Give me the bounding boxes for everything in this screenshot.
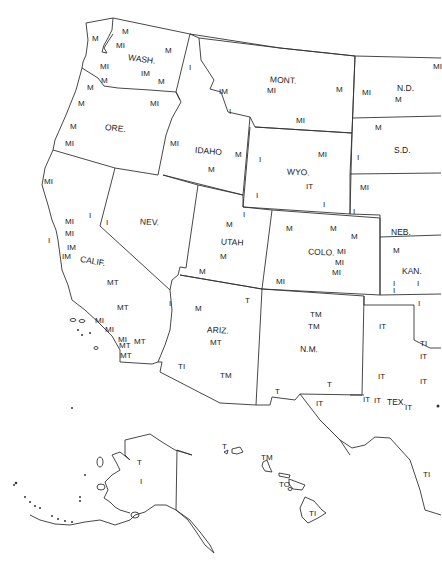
code-label: M xyxy=(226,221,233,229)
code-label: I xyxy=(189,64,191,72)
code-label: M xyxy=(330,225,337,233)
code-label: M xyxy=(101,77,108,85)
code-label: TM xyxy=(220,372,232,380)
code-label: M xyxy=(220,253,227,261)
channel-island xyxy=(70,319,76,322)
code-label: TI xyxy=(309,510,316,518)
code-label: IT xyxy=(420,378,427,386)
code-label: M xyxy=(336,86,343,94)
code-label: I xyxy=(393,280,395,288)
dakotas-outline xyxy=(350,56,441,174)
channel-island xyxy=(94,347,98,350)
state-label: S.D. xyxy=(394,146,411,155)
code-label: MT xyxy=(134,338,146,346)
code-label: T xyxy=(275,388,280,396)
code-label: I xyxy=(323,201,325,209)
state-label: IDAHO xyxy=(195,146,223,157)
texas-outline xyxy=(300,296,441,455)
code-label: I xyxy=(48,237,50,245)
code-label: M xyxy=(195,305,202,313)
code-label: M xyxy=(208,166,215,174)
code-label: MI xyxy=(100,63,109,71)
code-label: M xyxy=(286,225,293,233)
code-label: I xyxy=(106,219,108,227)
code-label: MT xyxy=(210,339,222,347)
code-label: I xyxy=(169,300,171,308)
code-label: TI xyxy=(178,363,185,371)
code-label: MI xyxy=(95,317,104,325)
code-label: T xyxy=(137,459,142,467)
code-label: MT xyxy=(120,352,132,360)
code-label: MI xyxy=(433,63,442,71)
code-label: T xyxy=(245,297,250,305)
state-label: NEV. xyxy=(140,218,159,227)
code-label: M xyxy=(395,96,402,104)
state-label: ARIZ. xyxy=(207,325,229,335)
code-label: M xyxy=(70,123,77,131)
code-label: TI xyxy=(423,471,430,479)
code-label: I xyxy=(353,208,355,216)
code-label: TO xyxy=(279,481,290,489)
channel-island xyxy=(79,320,85,323)
idaho-outline xyxy=(163,34,250,195)
code-label: IM xyxy=(67,244,76,252)
code-label: M xyxy=(351,233,358,241)
code-label: MI xyxy=(318,151,327,159)
alaska-island xyxy=(97,457,103,467)
code-label: M xyxy=(199,268,206,276)
code-label: M xyxy=(92,35,99,43)
code-label: I xyxy=(89,212,91,220)
state-label: NEB. xyxy=(391,228,411,237)
code-label: MI xyxy=(362,89,371,97)
code-label: MI xyxy=(337,248,346,256)
code-label: IT xyxy=(379,323,386,331)
code-label: MI xyxy=(65,140,74,148)
code-label: IM xyxy=(141,70,150,78)
code-label: MI xyxy=(105,326,114,334)
code-label: MT xyxy=(119,342,131,350)
state-label: UTAH xyxy=(221,237,244,247)
state-label: MONT. xyxy=(270,75,297,85)
code-label: M xyxy=(87,84,94,92)
code-label: MT xyxy=(117,304,129,312)
code-label: IT xyxy=(316,400,323,408)
code-label: MI xyxy=(276,278,285,286)
code-label: I xyxy=(418,300,420,308)
code-label: M xyxy=(158,78,165,86)
code-label: I xyxy=(357,154,359,162)
code-label: MI xyxy=(65,218,74,226)
northern-border xyxy=(113,18,441,58)
code-label: MI xyxy=(44,178,53,186)
code-label: M xyxy=(165,47,172,55)
code-label: I xyxy=(259,156,261,164)
code-label: MI xyxy=(170,140,179,148)
code-label: IM xyxy=(62,253,71,261)
hawaii-kauai xyxy=(232,447,243,454)
code-label: MI xyxy=(150,100,159,108)
state-label: WYO. xyxy=(287,167,310,177)
code-label: MI xyxy=(116,42,125,50)
nevada-outline xyxy=(100,168,198,290)
code-label: I xyxy=(417,280,419,288)
code-label: M xyxy=(393,247,400,255)
state-label: N.D. xyxy=(397,84,414,93)
code-label: MI xyxy=(267,87,276,95)
state-label: COLO. xyxy=(308,248,335,257)
code-label: TM xyxy=(261,454,273,462)
state-label: TEX. xyxy=(387,398,406,407)
code-label: IT xyxy=(374,397,381,405)
code-label: TI xyxy=(420,340,427,348)
gulf-coast xyxy=(320,420,441,515)
code-label: M xyxy=(375,124,382,132)
code-label: IT xyxy=(363,396,370,404)
code-label: MI xyxy=(296,117,305,125)
code-label: MI xyxy=(65,230,74,238)
code-label: IT xyxy=(378,373,385,381)
code-label: M xyxy=(78,100,85,108)
code-label: TM xyxy=(310,311,322,319)
state-label: KAN. xyxy=(402,267,422,276)
code-label: IM xyxy=(219,88,228,96)
state-label: N.M. xyxy=(300,345,318,354)
code-label: T xyxy=(327,381,332,389)
